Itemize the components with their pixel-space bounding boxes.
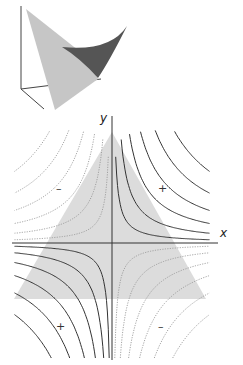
3d-saddle-inset [21, 6, 127, 110]
quadrant-4-sign: – [158, 320, 164, 333]
saddle-figure: y x + – + – [0, 0, 243, 365]
positive-contour [15, 315, 52, 358]
x-axis-label: x [219, 226, 228, 240]
quadrant-3-sign: + [56, 320, 65, 333]
negative-contour [173, 315, 210, 358]
y-axis-line-3d [21, 89, 44, 109]
shaded-triangle [14, 132, 206, 299]
positive-contour [175, 131, 210, 171]
quadrant-2-sign: – [56, 182, 62, 195]
quadrant-1-sign: + [158, 182, 167, 195]
positive-contour [141, 132, 210, 211]
negative-contour [15, 131, 50, 171]
y-axis-label: y [99, 111, 108, 125]
